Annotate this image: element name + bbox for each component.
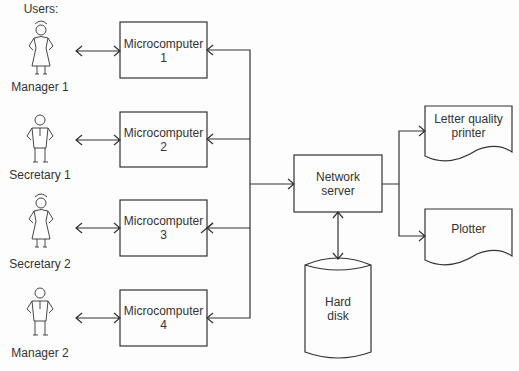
user-figure-manager-2 [27, 288, 53, 335]
network-diagram: Users: Manager 1 Secretary 1 Secretary 2… [0, 0, 519, 371]
printer-label: Letter qualityprinter [425, 112, 512, 140]
server-disk-arrow [333, 212, 343, 259]
user-label-manager-2: Manager 2 [2, 346, 78, 360]
user-figure-manager-1 [29, 21, 53, 74]
microcomputer-2-label: Microcomputer2 [120, 126, 207, 154]
network-server-label: Networkserver [294, 170, 382, 198]
user-figure-secretary-1 [27, 115, 53, 162]
microcomputer-4-label: Microcomputer4 [120, 304, 207, 332]
diagram-lines [0, 0, 519, 371]
network-bus [201, 45, 294, 323]
user-label-secretary-2: Secretary 2 [2, 257, 78, 271]
server-output-arrows [382, 126, 425, 241]
user-micro-arrows [76, 46, 120, 323]
microcomputer-1-label: Microcomputer1 [120, 37, 207, 65]
user-figure-secretary-2 [29, 194, 53, 247]
user-label-manager-1: Manager 1 [2, 80, 78, 94]
users-heading: Users: [18, 2, 64, 16]
hard-disk-label: Harddisk [305, 295, 371, 323]
microcomputer-3-label: Microcomputer3 [120, 214, 207, 242]
plotter-shape [425, 209, 512, 265]
plotter-label: Plotter [425, 222, 512, 236]
user-label-secretary-1: Secretary 1 [2, 168, 78, 182]
